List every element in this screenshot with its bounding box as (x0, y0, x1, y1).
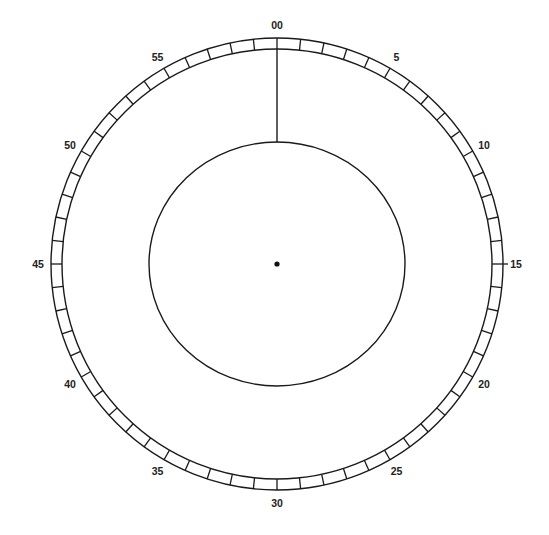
minute-tick (230, 474, 232, 485)
minute-tick (185, 58, 189, 68)
minute-tick (299, 478, 300, 489)
minute-label: 40 (64, 378, 76, 390)
minute-tick (164, 450, 170, 460)
minute-tick (62, 194, 72, 197)
minute-tick (56, 309, 67, 311)
minute-label: 5 (394, 51, 400, 63)
minute-label: 00 (271, 19, 283, 31)
minute-tick (481, 194, 491, 197)
minute-tick (81, 372, 91, 378)
minute-tick (94, 131, 103, 137)
minute-tick (451, 131, 460, 137)
minute-label: 30 (271, 497, 283, 509)
minute-tick (343, 468, 346, 478)
minute-tick (94, 390, 103, 396)
minute-label: 15 (510, 258, 522, 270)
minute-tick (491, 286, 502, 287)
minute-tick (144, 81, 150, 90)
center-dot (274, 261, 279, 266)
minute-label: 55 (152, 51, 164, 63)
minute-label: 20 (478, 378, 490, 390)
minute-tick (62, 330, 72, 333)
minute-tick (343, 49, 346, 59)
clock-dial: 00510152025303540455055 (0, 0, 549, 535)
minute-tick (421, 96, 428, 104)
minute-label: 45 (32, 258, 44, 270)
minute-tick (473, 172, 483, 176)
minute-tick (144, 438, 150, 447)
minute-tick (126, 96, 133, 104)
minute-tick (463, 372, 473, 378)
minute-tick (230, 43, 232, 54)
minute-tick (364, 58, 368, 68)
minute-tick (71, 172, 81, 176)
minute-tick (364, 460, 368, 470)
minute-tick (385, 450, 391, 460)
minute-tick (71, 351, 81, 355)
minute-tick (403, 438, 409, 447)
minute-tick (437, 408, 445, 415)
minute-tick (52, 240, 63, 241)
minute-tick (403, 81, 409, 90)
minute-tick (52, 286, 63, 287)
minute-tick (421, 424, 428, 432)
minute-tick (299, 39, 300, 50)
minute-tick (109, 113, 117, 120)
minute-tick (451, 390, 460, 396)
minute-tick (385, 68, 391, 78)
minute-label: 35 (152, 465, 164, 477)
minute-tick (56, 217, 67, 219)
minute-tick (109, 408, 117, 415)
minute-tick (473, 351, 483, 355)
minute-tick (487, 217, 498, 219)
minute-tick (207, 49, 210, 59)
minute-tick (491, 240, 502, 241)
minute-label: 10 (478, 139, 490, 151)
minute-tick (322, 474, 324, 485)
minute-tick (207, 468, 210, 478)
minute-tick (463, 151, 473, 157)
minute-tick (185, 460, 189, 470)
minute-tick (253, 478, 254, 489)
minute-tick (437, 113, 445, 120)
minute-tick (81, 151, 91, 157)
minute-tick (481, 330, 491, 333)
minute-label: 25 (391, 465, 403, 477)
minute-tick (253, 39, 254, 50)
minute-tick (487, 309, 498, 311)
minute-tick (126, 424, 133, 432)
minute-label: 50 (64, 139, 76, 151)
minute-tick (322, 43, 324, 54)
minute-tick (164, 68, 170, 78)
